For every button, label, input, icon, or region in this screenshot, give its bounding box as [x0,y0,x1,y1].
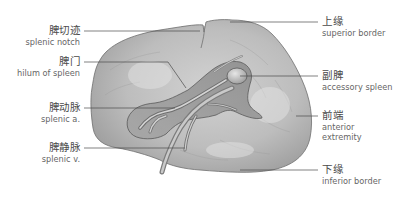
label-zh: 下缘 [322,164,381,175]
label-en: superior border [322,29,385,37]
label-zh: 副脾 [322,70,392,81]
label-zh: 脾切迹 [26,25,80,36]
label-zh: 脾动脉 [41,102,80,113]
label-zh: 前端 [322,110,361,121]
label-superior-border: 上缘 superior border [322,16,385,37]
label-inferior-border: 下缘 inferior border [322,164,381,185]
label-anterior-extremity: 前端 anterior extremity [322,110,361,141]
label-en: splenic a. [41,115,80,123]
label-en: splenic notch [26,38,80,46]
label-en: anterior [322,123,361,131]
label-zh: 上缘 [322,16,385,27]
label-hilum-of-spleen: 脾门 hilum of spleen [17,56,80,77]
label-en: inferior border [322,177,381,185]
label-zh: 脾门 [17,56,80,67]
label-en: splenic v. [42,155,80,163]
spleen-diagram: 脾切迹 splenic notch 脾门 hilum of spleen 脾动脉… [0,0,412,198]
label-en-line2: extremity [322,133,361,141]
label-accessory-spleen: 副脾 accessory spleen [322,70,392,91]
label-en: accessory spleen [322,83,392,91]
label-splenic-artery: 脾动脉 splenic a. [41,102,80,123]
label-splenic-notch: 脾切迹 splenic notch [26,25,80,46]
label-en: hilum of spleen [17,69,80,77]
label-splenic-vein: 脾静脉 splenic v. [42,142,80,163]
label-zh: 脾静脉 [42,142,80,153]
